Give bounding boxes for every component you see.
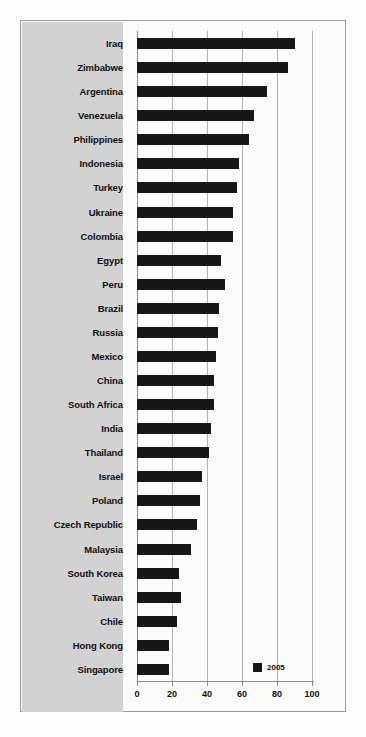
category-label-row: Hong Kong: [22, 633, 123, 658]
bar-row: [137, 272, 329, 297]
category-label-row: Iraq: [22, 31, 123, 56]
bar-egypt: [137, 255, 221, 266]
tick-label-40: 40: [202, 689, 212, 699]
tick-label-80: 80: [272, 689, 282, 699]
category-label-row: Brazil: [22, 296, 123, 321]
category-label-turkey: Turkey: [27, 175, 123, 200]
bar-row: [137, 633, 329, 658]
category-label-row: Malaysia: [22, 537, 123, 562]
category-label-row: Mexico: [22, 344, 123, 369]
legend-label-2005: 2005: [267, 663, 285, 672]
category-label-colombia: Colombia: [27, 224, 123, 249]
category-label-row: Israel: [22, 464, 123, 489]
category-label-row: Chile: [22, 609, 123, 634]
category-label-chile: Chile: [27, 609, 123, 634]
bar-row: [137, 55, 329, 80]
category-label-row: Poland: [22, 488, 123, 513]
tick-mark-60: [242, 682, 243, 686]
category-label-row: Singapore: [22, 657, 123, 682]
category-label-row: Czech Republic: [22, 512, 123, 537]
bar-philippines: [137, 134, 249, 145]
category-label-row: Argentina: [22, 79, 123, 104]
legend: 2005: [253, 663, 285, 672]
bar-south-korea: [137, 568, 179, 579]
bar-row: [137, 200, 329, 225]
category-label-brazil: Brazil: [27, 296, 123, 321]
category-label-row: Taiwan: [22, 585, 123, 610]
category-label-peru: Peru: [27, 272, 123, 297]
bar-row: [137, 224, 329, 249]
category-label-row: Thailand: [22, 440, 123, 465]
bar-mexico: [137, 351, 216, 362]
bar-ukraine: [137, 207, 233, 218]
bar-zimbabwe: [137, 62, 288, 73]
bar-argentina: [137, 86, 267, 97]
bar-row: [137, 344, 329, 369]
category-label-row: Peru: [22, 272, 123, 297]
category-label-row: Indonesia: [22, 151, 123, 176]
category-label-row: Egypt: [22, 248, 123, 273]
bar-row: [137, 561, 329, 586]
bar-row: [137, 175, 329, 200]
bar-row: [137, 79, 329, 104]
bar-row: [137, 416, 329, 441]
category-label-row: Venezuela: [22, 103, 123, 128]
bar-singapore: [137, 664, 169, 675]
tick-label-100: 100: [304, 689, 319, 699]
category-label-argentina: Argentina: [27, 79, 123, 104]
bar-row: [137, 151, 329, 176]
bar-row: [137, 512, 329, 537]
bar-row: [137, 585, 329, 610]
tick-mark-80: [277, 682, 278, 686]
category-label-row: Turkey: [22, 175, 123, 200]
category-label-row: India: [22, 416, 123, 441]
category-label-row: Philippines: [22, 127, 123, 152]
bar-south-africa: [137, 399, 214, 410]
tick-label-60: 60: [237, 689, 247, 699]
bar-row: [137, 248, 329, 273]
category-label-venezuela: Venezuela: [27, 103, 123, 128]
category-label-russia: Russia: [27, 320, 123, 345]
bar-row: [137, 657, 329, 682]
bar-row: [137, 609, 329, 634]
category-label-row: Zimbabwe: [22, 55, 123, 80]
category-label-hong-kong: Hong Kong: [27, 633, 123, 658]
bar-russia: [137, 327, 218, 338]
tick-label-20: 20: [167, 689, 177, 699]
bar-row: [137, 440, 329, 465]
bar-colombia: [137, 231, 233, 242]
tick-mark-0: [137, 682, 138, 686]
bar-row: [137, 127, 329, 152]
category-label-row: Colombia: [22, 224, 123, 249]
category-label-south-korea: South Korea: [27, 561, 123, 586]
bar-venezuela: [137, 110, 254, 121]
x-axis-line: [137, 681, 314, 682]
category-label-israel: Israel: [27, 464, 123, 489]
category-label-row: South Africa: [22, 392, 123, 417]
category-label-row: Ukraine: [22, 200, 123, 225]
bar-row: [137, 537, 329, 562]
category-label-czech-republic: Czech Republic: [27, 512, 123, 537]
bar-row: [137, 296, 329, 321]
category-label-ukraine: Ukraine: [27, 200, 123, 225]
bar-israel: [137, 471, 202, 482]
category-label-mexico: Mexico: [27, 344, 123, 369]
bar-indonesia: [137, 158, 239, 169]
bar-row: [137, 31, 329, 56]
category-label-south-africa: South Africa: [27, 392, 123, 417]
category-label-india: India: [27, 416, 123, 441]
category-label-poland: Poland: [27, 488, 123, 513]
bar-poland: [137, 495, 200, 506]
bar-turkey: [137, 182, 237, 193]
category-label-row: South Korea: [22, 561, 123, 586]
tick-mark-20: [172, 682, 173, 686]
category-label-malaysia: Malaysia: [27, 537, 123, 562]
category-label-panel: IraqZimbabweArgentinaVenezuelaPhilippine…: [22, 22, 123, 712]
category-label-iraq: Iraq: [27, 31, 123, 56]
category-label-singapore: Singapore: [27, 657, 123, 682]
category-label-egypt: Egypt: [27, 248, 123, 273]
bar-brazil: [137, 303, 219, 314]
bar-thailand: [137, 447, 209, 458]
bar-iraq: [137, 38, 295, 49]
category-label-row: China: [22, 368, 123, 393]
